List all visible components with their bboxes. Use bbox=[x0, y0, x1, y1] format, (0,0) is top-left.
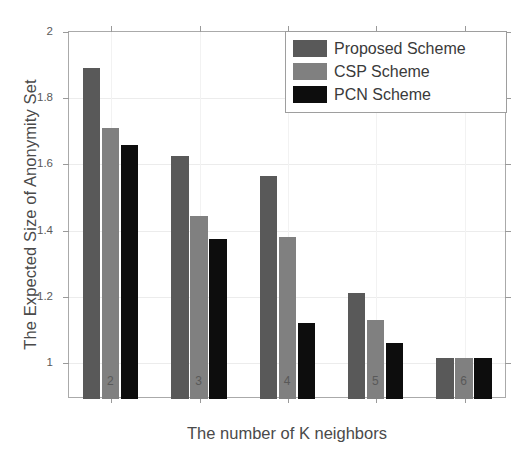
x-tick-label: 2 bbox=[90, 374, 130, 388]
x-tick-label: 4 bbox=[267, 374, 307, 388]
bar bbox=[83, 68, 101, 399]
legend-label: Proposed Scheme bbox=[334, 41, 466, 57]
y-tick-mark-right bbox=[505, 363, 511, 364]
legend-item[interactable]: CSP Scheme bbox=[293, 60, 499, 83]
legend-swatch-icon bbox=[293, 40, 327, 57]
legend-label: CSP Scheme bbox=[334, 64, 430, 80]
y-tick-mark bbox=[63, 164, 69, 165]
y-tick-label: 1.6 bbox=[0, 157, 53, 169]
y-tick-label: 1.8 bbox=[0, 91, 53, 103]
legend-swatch-icon bbox=[293, 86, 327, 103]
x-tick-mark-top bbox=[200, 26, 201, 32]
bar bbox=[121, 145, 139, 399]
bar bbox=[171, 156, 189, 399]
legend-label: PCN Scheme bbox=[334, 87, 431, 103]
y-tick-mark bbox=[63, 32, 69, 33]
y-tick-mark-right bbox=[505, 231, 511, 232]
y-tick-label: 1 bbox=[0, 356, 53, 368]
y-tick-mark bbox=[63, 297, 69, 298]
bar bbox=[102, 128, 120, 399]
x-tick-label: 5 bbox=[355, 374, 395, 388]
x-tick-label: 6 bbox=[444, 374, 484, 388]
y-tick-label: 1.4 bbox=[0, 224, 53, 236]
x-tick-mark-top bbox=[111, 26, 112, 32]
bar bbox=[386, 343, 404, 399]
x-axis-title: The number of K neighbors bbox=[68, 424, 506, 443]
legend-item[interactable]: PCN Scheme bbox=[293, 83, 499, 106]
legend-item[interactable]: Proposed Scheme bbox=[293, 37, 499, 60]
x-tick-label: 3 bbox=[179, 374, 219, 388]
y-tick-label: 1.2 bbox=[0, 290, 53, 302]
y-tick-mark-right bbox=[505, 297, 511, 298]
y-tick-mark bbox=[63, 363, 69, 364]
y-tick-label: 2 bbox=[0, 25, 53, 37]
bar bbox=[260, 176, 278, 399]
y-tick-mark bbox=[63, 231, 69, 232]
legend-swatch-icon bbox=[293, 63, 327, 80]
y-tick-mark-right bbox=[505, 164, 511, 165]
chart-legend: Proposed SchemeCSP SchemePCN Scheme bbox=[285, 31, 507, 113]
bar-chart-figure: The Expected Size of Anonymity Set 11.21… bbox=[0, 0, 527, 454]
bar bbox=[190, 216, 208, 399]
y-tick-mark bbox=[63, 98, 69, 99]
